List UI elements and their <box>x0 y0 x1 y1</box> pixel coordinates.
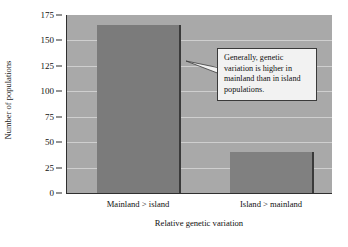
y-axis-tick-label: 100 <box>41 86 55 96</box>
y-axis-tick-label: 150 <box>41 35 55 45</box>
y-axis-tick-label: 0 <box>50 188 55 198</box>
callout-annotation: Generally, genetic variation is higher i… <box>217 48 317 101</box>
x-axis-title: Relative genetic variation <box>66 218 332 228</box>
y-axis-tick-label: 50 <box>45 137 54 147</box>
callout-pointer-icon <box>186 57 220 77</box>
y-axis-tick-mark <box>56 15 62 16</box>
callout-text: Generally, genetic variation is higher i… <box>224 53 301 94</box>
y-axis-tick-mark <box>56 65 62 66</box>
y-axis-tick-label: 175 <box>41 10 55 20</box>
y-axis-tick-mark <box>56 40 62 41</box>
y-axis-tick-mark <box>56 91 62 92</box>
x-axis-title-text: Relative genetic variation <box>155 218 243 228</box>
plot-area <box>66 15 332 194</box>
y-axis-tick-labels: 1751501251007550250 <box>18 15 62 193</box>
y-axis-title: Number of populations <box>0 0 16 200</box>
x-axis-category-label: Island > mainland <box>240 199 302 209</box>
bar-chart-figure: Number of populations 175150125100755025… <box>0 0 348 247</box>
y-axis-tick-label: 125 <box>41 61 55 71</box>
x-axis-category-labels: Mainland > islandIsland > mainland <box>66 199 332 213</box>
y-axis-tick-mark <box>56 193 62 194</box>
y-axis-tick-label: 75 <box>45 112 54 122</box>
y-axis-tick-label: 25 <box>45 163 54 173</box>
y-axis-title-text: Number of populations <box>3 61 13 140</box>
bar <box>230 152 314 193</box>
x-axis-category-label: Mainland > island <box>107 199 170 209</box>
bar <box>97 25 181 193</box>
y-axis-tick-mark <box>56 116 62 117</box>
y-axis-tick-mark <box>56 167 62 168</box>
y-axis-tick-mark <box>56 142 62 143</box>
